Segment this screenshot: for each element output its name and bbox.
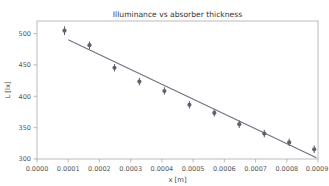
data-point	[312, 147, 316, 151]
x-tick-label: 0.0005	[182, 165, 205, 173]
chart-plot: Illuminance vs absorber thickness 0.0000…	[0, 0, 329, 186]
y-tick-label: 350	[19, 124, 31, 132]
data-point	[237, 122, 241, 126]
y-tick-label: 500	[19, 30, 31, 38]
x-tick-label: 0.0001	[57, 165, 80, 173]
x-tick-label: 0.0002	[88, 165, 111, 173]
data-point	[287, 140, 291, 144]
x-tick-label: 0.0007	[244, 165, 267, 173]
x-tick-label: 0.0008	[275, 165, 298, 173]
y-axis-label: L [lx]	[4, 81, 12, 99]
x-tick-label: 0.0009	[306, 165, 329, 173]
data-point	[112, 66, 116, 70]
data-point	[187, 103, 191, 107]
y-tick-label: 450	[19, 61, 31, 69]
chart-title: Illuminance vs absorber thickness	[113, 10, 242, 19]
x-axis-label: x [m]	[168, 176, 186, 184]
data-point	[137, 80, 141, 84]
x-tick-label: 0.0006	[213, 165, 236, 173]
y-tick-label: 400	[19, 93, 31, 101]
x-tick-label: 0.0003	[119, 165, 142, 173]
data-point	[262, 132, 266, 136]
y-tick-label: 300	[19, 155, 31, 163]
x-tick-label: 0.0004	[151, 165, 174, 173]
data-point	[62, 29, 66, 33]
figure-canvas: Illuminance vs absorber thickness 0.0000…	[0, 0, 329, 186]
data-point	[87, 43, 91, 47]
data-point	[212, 111, 216, 115]
x-tick-label: 0.0000	[26, 165, 49, 173]
data-point	[162, 89, 166, 93]
